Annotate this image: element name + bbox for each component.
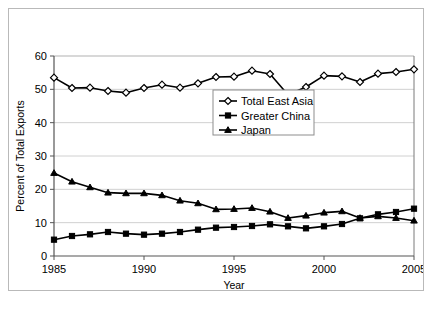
y-tick-label-0: 0 [41, 250, 47, 262]
series-0-point-7 [177, 84, 184, 91]
series-0-point-10 [231, 73, 238, 80]
series-1-point-2 [87, 232, 92, 237]
series-1-point-1 [69, 233, 74, 238]
y-tick-label-50: 50 [35, 83, 47, 95]
line-chart: 010203040506019851990199520002005YearPer… [9, 9, 423, 290]
series-1-point-4 [123, 231, 128, 236]
series-0-point-20 [411, 66, 418, 73]
series-1-point-14 [303, 226, 308, 231]
x-tick-label-1985: 1985 [42, 263, 66, 275]
series-0-point-1 [69, 85, 76, 92]
series-0-point-19 [393, 69, 400, 76]
series-0-point-5 [141, 85, 148, 92]
series-0-point-6 [159, 81, 166, 88]
x-tick-label-1995: 1995 [222, 263, 246, 275]
series-1-point-16 [339, 221, 344, 226]
y-axis-title: Percent of Total Exports [14, 100, 26, 211]
legend-label-1: Greater China [241, 110, 311, 122]
y-tick-label-20: 20 [35, 183, 47, 195]
series-0-point-2 [87, 84, 94, 91]
y-tick-label-10: 10 [35, 217, 47, 229]
series-0-point-0 [51, 74, 58, 81]
series-1-point-3 [105, 229, 110, 234]
figure-root: 010203040506019851990199520002005YearPer… [0, 0, 434, 313]
y-tick-label-40: 40 [35, 117, 47, 129]
chart-frame: 010203040506019851990199520002005YearPer… [8, 8, 424, 291]
series-1-point-13 [285, 224, 290, 229]
series-1-point-9 [213, 225, 218, 230]
series-1-point-12 [267, 222, 272, 227]
series-1-point-0 [51, 237, 56, 242]
legend-label-2: Japan [241, 124, 271, 136]
legend-label-0: Total East Asia [241, 95, 314, 107]
series-1-point-8 [195, 227, 200, 232]
series-0-point-11 [249, 67, 256, 74]
series-line-2 [54, 173, 414, 221]
series-1-point-15 [321, 224, 326, 229]
x-tick-label-2000: 2000 [312, 263, 336, 275]
x-axis-title: Year [223, 279, 245, 290]
series-2-point-0 [51, 170, 58, 176]
x-tick-label-2005: 2005 [402, 263, 423, 275]
series-0-point-16 [339, 73, 346, 80]
series-0-point-17 [357, 79, 364, 86]
y-tick-label-30: 30 [35, 150, 47, 162]
series-1-point-7 [177, 229, 182, 234]
x-tick-label-1990: 1990 [132, 263, 156, 275]
y-tick-label-60: 60 [35, 50, 47, 62]
series-1-point-10 [231, 224, 236, 229]
legend-marker-1 [225, 113, 230, 118]
series-1-point-5 [141, 232, 146, 237]
series-0-point-4 [123, 89, 130, 96]
series-0-point-9 [213, 74, 220, 81]
series-1-point-20 [411, 206, 416, 211]
series-1-point-11 [249, 223, 254, 228]
series-0-point-8 [195, 80, 202, 87]
series-0-point-3 [105, 88, 112, 95]
series-1-point-6 [159, 231, 164, 236]
figure-caption [10, 299, 310, 311]
series-0-point-18 [375, 70, 382, 77]
